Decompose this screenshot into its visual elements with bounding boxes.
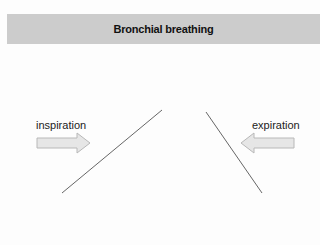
arrow-left-icon [241,133,294,153]
arrow-right-icon [37,133,90,153]
breathing-diagram [0,0,320,245]
